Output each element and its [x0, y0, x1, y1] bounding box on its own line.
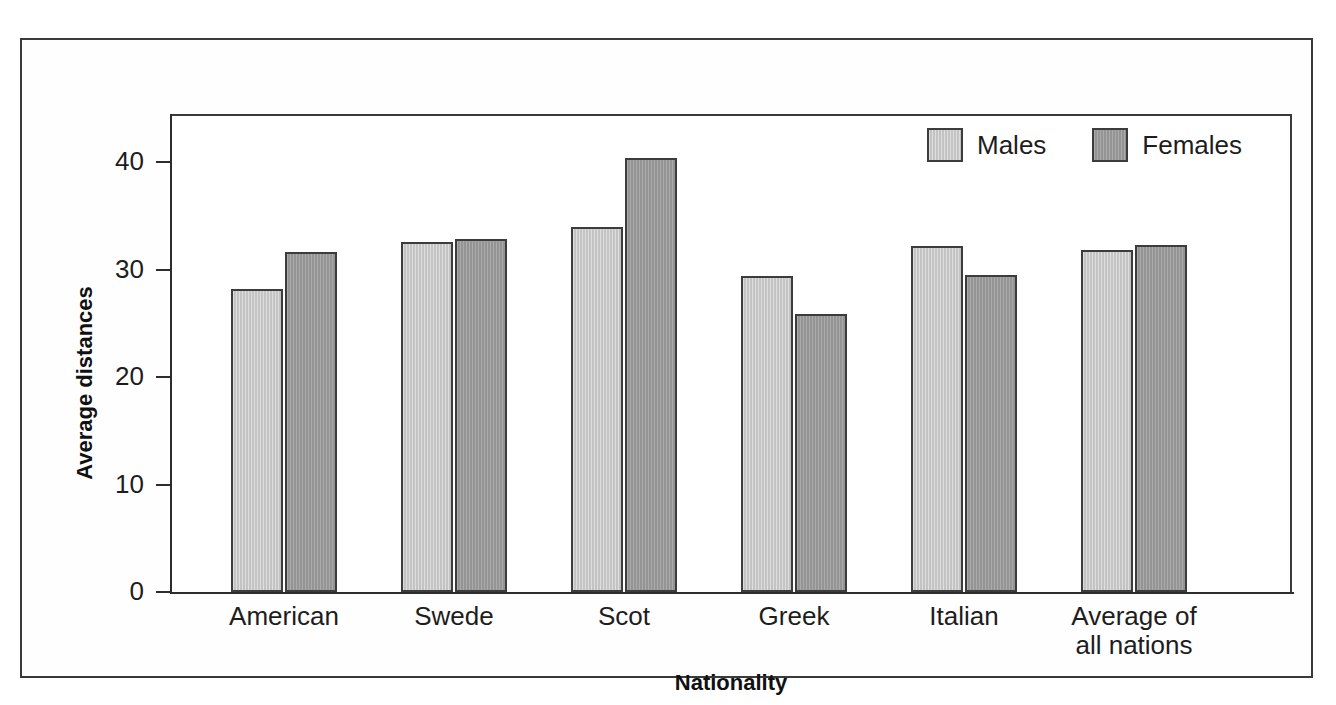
legend-label: Females [1142, 130, 1242, 161]
y-tick-mark [156, 269, 170, 271]
bars-layer [172, 114, 1292, 592]
bar-females-scot [625, 158, 677, 592]
x-axis-title: Nationality [170, 670, 1292, 696]
bar-males-greek [741, 276, 793, 592]
chart-legend: MalesFemales [927, 128, 1242, 162]
y-tick-mark [156, 591, 170, 593]
legend-swatch-females [1092, 128, 1128, 162]
bar-males-average-of-all-nations [1081, 250, 1133, 592]
bar-females-american [285, 252, 337, 593]
y-tick-mark [156, 161, 170, 163]
x-axis-label-line: all nations [1024, 631, 1244, 660]
y-tick-mark [156, 376, 170, 378]
y-axis-title: Average distances [72, 263, 98, 503]
figure-outer-frame: 010203040 AmericanSwedeScotGreekItalianA… [20, 38, 1313, 678]
bar-males-swede [401, 242, 453, 592]
bar-females-average-of-all-nations [1135, 245, 1187, 592]
legend-entry-females: Females [1092, 128, 1242, 162]
bar-females-swede [455, 239, 507, 592]
bar-males-scot [571, 227, 623, 592]
bar-males-italian [911, 246, 963, 592]
y-tick-mark [156, 484, 170, 486]
y-tick-label: 0 [84, 578, 144, 604]
legend-entry-males: Males [927, 128, 1046, 162]
y-tick-label: 40 [84, 148, 144, 174]
bar-females-greek [795, 314, 847, 592]
legend-label: Males [977, 130, 1046, 161]
bar-males-american [231, 289, 283, 592]
bar-females-italian [965, 275, 1017, 592]
x-axis-label-line: Average of [1024, 602, 1244, 631]
x-axis-label-average-of-all-nations: Average ofall nations [1024, 602, 1244, 660]
legend-swatch-males [927, 128, 963, 162]
x-axis-line [170, 592, 1294, 594]
